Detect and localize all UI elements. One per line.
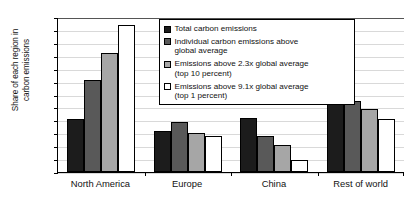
legend-item-label: Emissions above 2.3x global average (top… xyxy=(175,59,309,78)
bar xyxy=(361,109,378,172)
legend-item-label: Individual carbon emissions above global… xyxy=(175,37,299,56)
bar xyxy=(378,119,395,172)
x-axis-label: China xyxy=(231,178,318,194)
legend-item-label: Emissions above 9.1x global average (top… xyxy=(175,82,309,101)
legend-item: Emissions above 9.1x global average (top… xyxy=(164,82,349,101)
legend-swatch-icon xyxy=(164,26,171,33)
y-axis-title-line-2: carbon emissions xyxy=(22,0,33,140)
legend-item: Emissions above 2.3x global average (top… xyxy=(164,59,349,78)
bar-group xyxy=(58,18,145,172)
bar xyxy=(274,145,291,172)
bar xyxy=(118,25,135,172)
x-axis-category-separator xyxy=(318,172,319,176)
x-axis-category-separator xyxy=(231,172,232,176)
x-axis-category-separator xyxy=(145,172,146,176)
y-tick-mark xyxy=(54,173,58,174)
bar-chart: Share of each region in carbon emissions… xyxy=(0,0,415,210)
bar xyxy=(257,136,274,172)
x-axis-category-separator xyxy=(403,172,404,176)
bar xyxy=(84,80,101,172)
y-axis-title-line-1: Share of each region in xyxy=(11,0,22,140)
bar xyxy=(344,101,361,172)
bar xyxy=(205,136,222,172)
bar xyxy=(67,119,84,172)
y-axis-title: Share of each region in carbon emissions xyxy=(11,0,39,140)
legend-item-label: Total carbon emissions xyxy=(175,24,257,33)
x-axis-label: Rest of world xyxy=(317,178,404,194)
x-axis-label: North America xyxy=(57,178,144,194)
bar xyxy=(188,133,205,172)
legend-item: Individual carbon emissions above global… xyxy=(164,37,349,56)
bar xyxy=(171,122,188,172)
legend-swatch-icon xyxy=(164,38,171,45)
bar xyxy=(154,131,171,172)
bar xyxy=(101,53,118,172)
legend-swatch-icon xyxy=(164,61,171,68)
legend-item: Total carbon emissions xyxy=(164,24,349,33)
bar xyxy=(240,118,257,172)
chart-legend: Total carbon emissionsIndividual carbon … xyxy=(159,19,355,105)
x-axis-labels: North AmericaEuropeChinaRest of world xyxy=(57,178,404,194)
bar xyxy=(291,160,308,172)
x-axis-label: Europe xyxy=(144,178,231,194)
legend-swatch-icon xyxy=(164,83,171,90)
